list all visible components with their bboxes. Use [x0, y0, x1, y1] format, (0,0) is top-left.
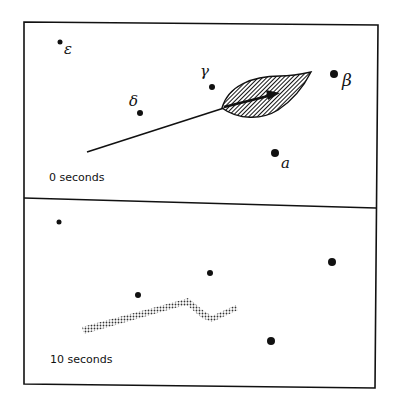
hatched-leaf — [222, 72, 311, 117]
panel-divider — [24, 198, 376, 208]
time-label-top: 0 seconds — [49, 171, 104, 184]
time-label-bottom: 10 seconds — [50, 353, 112, 366]
label-gamma: γ — [200, 64, 209, 79]
leaf-stem-line — [87, 108, 224, 152]
point-gamma — [209, 84, 215, 90]
point-delta — [137, 110, 143, 116]
point-delta-later — [135, 292, 141, 298]
point-alpha-later — [267, 337, 275, 345]
point-beta-later — [328, 258, 336, 266]
label-epsilon: ε — [64, 42, 72, 57]
point-epsilon-later — [57, 220, 62, 225]
point-epsilon — [58, 40, 63, 45]
label-delta: δ — [129, 94, 138, 109]
point-beta — [330, 70, 338, 78]
label-beta: β — [342, 72, 352, 89]
point-gamma-later — [207, 270, 213, 276]
label-alpha: a — [281, 156, 290, 171]
point-alpha — [271, 149, 279, 157]
stippled-trail — [82, 298, 238, 334]
diagram-canvas — [0, 0, 396, 408]
